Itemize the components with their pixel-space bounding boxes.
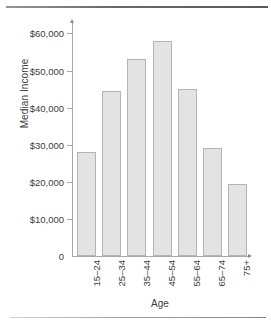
bar (77, 152, 96, 256)
x-axis-title: Age (72, 298, 248, 309)
bar (153, 41, 172, 256)
y-axis-tick-label: $20,000 (30, 176, 64, 187)
page-rule-bottom (10, 317, 266, 318)
bar (127, 59, 146, 256)
plot-area: 0$10,000$20,000$30,000$40,000$50,000$60,… (72, 26, 248, 256)
bar-series (72, 26, 248, 256)
bar (228, 184, 247, 256)
page-rule-top (6, 6, 268, 8)
y-axis-tick-label: $10,000 (30, 213, 64, 224)
y-axis-tick-label: 0 (59, 251, 64, 262)
bar (102, 91, 121, 256)
x-axis-line (72, 256, 250, 257)
x-axis-arrow-icon (248, 254, 252, 258)
y-axis-tick-label: $40,000 (30, 102, 64, 113)
bar (178, 89, 197, 256)
y-axis-tick-label: $60,000 (30, 28, 64, 39)
y-axis-arrow-icon (70, 19, 74, 23)
x-axis-tick-label: 65–74 (216, 260, 227, 286)
y-axis-title: Median Income (19, 34, 30, 154)
y-axis-tick-label: $30,000 (30, 139, 64, 150)
x-axis-tick-label: 55–64 (191, 260, 202, 286)
bar-chart-figure: Median Income 0$10,000$20,000$30,000$40,… (0, 12, 271, 312)
y-axis-tick-label: $50,000 (30, 65, 64, 76)
x-axis-tick-label: 45–54 (166, 260, 177, 286)
x-axis-tick-label: 25–34 (116, 260, 127, 286)
x-axis-tick-label: 15–24 (91, 260, 102, 286)
x-axis-tick-label: 75+ (241, 260, 252, 276)
x-axis-tick-label: 35–44 (141, 260, 152, 286)
bar (203, 148, 222, 256)
